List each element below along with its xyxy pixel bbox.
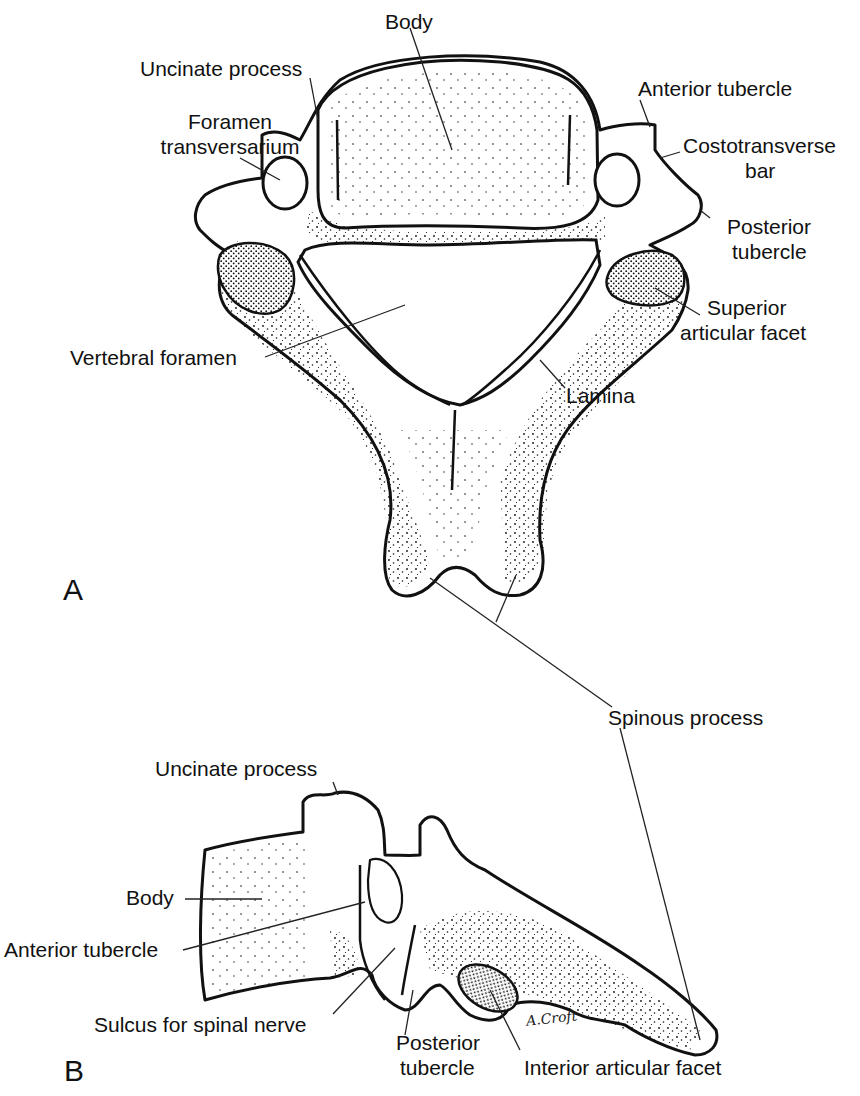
label-superior-articular-facet-line1: Superior — [707, 296, 786, 320]
label-a-posterior-tubercle-line1: Posterior — [727, 215, 811, 239]
label-a-anterior-tubercle: Anterior tubercle — [638, 77, 792, 101]
label-b-body: Body — [126, 886, 174, 910]
label-vertebral-foramen: Vertebral foramen — [70, 346, 237, 370]
label-interior-articular-facet: Interior articular facet — [524, 1056, 721, 1080]
panel-letter-a: A — [63, 574, 83, 606]
label-b-anterior-tubercle: Anterior tubercle — [4, 938, 158, 962]
anatomy-figure: Body Uncinate process Foramen transversa… — [0, 0, 860, 1096]
label-foramen-transversarium-line2: transversarium — [155, 135, 305, 159]
label-costotransverse-bar-line1: Costotransverse — [683, 134, 836, 158]
label-b-uncinate-process: Uncinate process — [155, 757, 317, 781]
label-a-body: Body — [385, 10, 433, 34]
panel-letter-b: B — [64, 1055, 84, 1087]
vertebra-drawing — [0, 0, 860, 1096]
label-b-posterior-tubercle-line1: Posterior — [396, 1031, 480, 1055]
label-superior-articular-facet-line2: articular facet — [680, 321, 806, 345]
label-sulcus-for-spinal-nerve: Sulcus for spinal nerve — [94, 1013, 306, 1037]
label-foramen-transversarium-line1: Foramen — [160, 110, 300, 134]
label-spinous-process: Spinous process — [608, 706, 763, 730]
label-costotransverse-bar-line2: bar — [745, 159, 775, 183]
label-lamina: Lamina — [566, 384, 635, 408]
label-a-uncinate-process: Uncinate process — [140, 57, 302, 81]
label-b-posterior-tubercle-line2: tubercle — [400, 1056, 475, 1080]
label-a-posterior-tubercle-line2: tubercle — [732, 240, 807, 264]
